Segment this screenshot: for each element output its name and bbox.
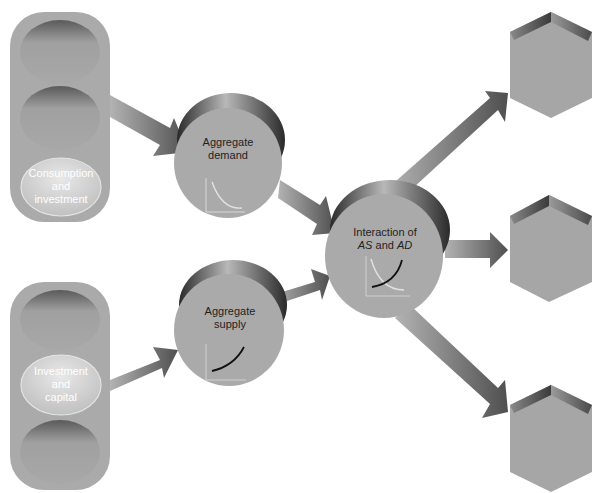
aggregate-demand-label: Aggregate demand: [188, 136, 268, 162]
panel-slot: [20, 420, 100, 484]
arrow-bottom-panel-to-supply: [110, 347, 178, 391]
arrow-interaction-to-output-middle: [445, 232, 508, 268]
panel-slot: [20, 20, 100, 84]
panel-slot: [20, 290, 100, 350]
arrow-interaction-to-output-bottom: [395, 305, 508, 418]
arrow-top-panel-to-demand: [110, 95, 188, 156]
diagram-canvas: [0, 0, 601, 493]
output-hexagon-top: [510, 12, 592, 118]
panel-slot: [20, 86, 100, 150]
interaction-label: Interaction of AS and AD: [340, 226, 430, 252]
arrow-demand-to-interaction: [278, 180, 335, 235]
output-hexagon-middle: [510, 195, 592, 302]
aggregate-supply-label: Aggregate supply: [190, 305, 270, 331]
slot-label-investment-capital: Investment and capital: [21, 365, 101, 404]
output-hexagon-bottom: [510, 385, 592, 492]
slot-label-consumption-investment: Consumption and investment: [21, 167, 101, 206]
